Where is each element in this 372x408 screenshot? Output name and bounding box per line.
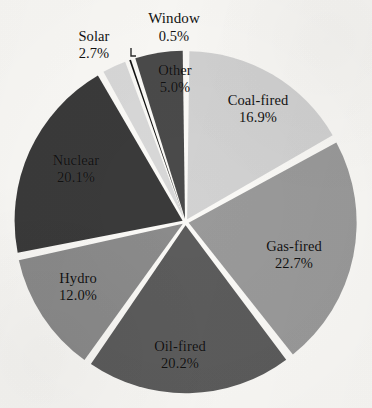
slice-label-hydro-name: Hydro — [28, 270, 128, 287]
slice-label-window: Window 0.5% — [128, 10, 220, 45]
slice-label-hydro: Hydro 12.0% — [28, 270, 128, 304]
slice-label-window-name: Window — [128, 10, 220, 28]
slice-label-other: Other 5.0% — [138, 62, 212, 96]
slice-label-nuclear-value: 20.1% — [22, 169, 130, 186]
slice-label-nuclear-name: Nuclear — [22, 152, 130, 169]
pie-chart-figure: Coal-fired 16.9% Gas-fired 22.7% Oil-fir… — [0, 0, 372, 408]
slice-label-other-value: 5.0% — [138, 79, 212, 96]
slice-label-coal-fired: Coal-fired 16.9% — [204, 92, 312, 126]
slice-label-solar: Solar 2.7% — [58, 28, 130, 62]
slice-label-coal-fired-name: Coal-fired — [204, 92, 312, 109]
slice-label-hydro-value: 12.0% — [28, 287, 128, 304]
window-leader-line — [131, 48, 136, 56]
slice-label-oil-fired-name: Oil-fired — [126, 338, 234, 355]
slice-label-window-value: 0.5% — [128, 28, 220, 45]
slice-label-oil-fired-value: 20.2% — [126, 355, 234, 372]
slice-label-oil-fired: Oil-fired 20.2% — [126, 338, 234, 372]
slice-label-solar-value: 2.7% — [58, 45, 130, 62]
slice-label-other-name: Other — [138, 62, 212, 79]
slice-label-gas-fired-value: 22.7% — [240, 255, 348, 272]
slice-label-nuclear: Nuclear 20.1% — [22, 152, 130, 186]
slice-label-solar-name: Solar — [58, 28, 130, 45]
slice-label-coal-fired-value: 16.9% — [204, 109, 312, 126]
slice-label-gas-fired: Gas-fired 22.7% — [240, 238, 348, 272]
slice-label-gas-fired-name: Gas-fired — [240, 238, 348, 255]
